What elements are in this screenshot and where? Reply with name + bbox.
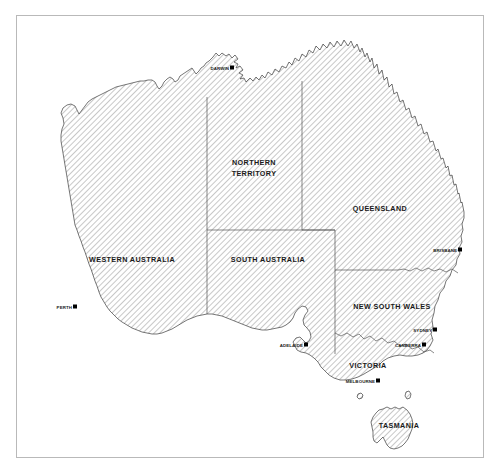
map-canvas: WESTERN AUSTRALIA NORTHERN TERRITORY QUE… <box>0 0 500 474</box>
city-label-perth: PERTH <box>57 305 72 310</box>
city-label-adelaide: ADELAIDE <box>280 343 303 348</box>
city-dot-melbourne <box>376 379 380 383</box>
city-label-sydney: SYDNEY <box>413 328 432 333</box>
city-label-brisbane: BRISBANE <box>433 248 457 253</box>
state-label-tas: TASMANIA <box>379 421 420 430</box>
state-label-nt-line2: TERRITORY <box>232 169 277 178</box>
state-label-nt: NORTHERN <box>232 158 276 167</box>
tasmania-landmass <box>357 391 413 449</box>
city-dot-perth <box>73 305 77 309</box>
city-label-darwin: DARWIN <box>210 66 229 71</box>
flinders-island <box>405 391 411 399</box>
king-island <box>357 393 363 399</box>
city-label-melbourne: MELBOURNE <box>346 379 375 384</box>
australia-map: WESTERN AUSTRALIA NORTHERN TERRITORY QUE… <box>0 0 500 474</box>
city-label-canberra: CANBERRA <box>395 343 422 348</box>
state-label-vic: VICTORIA <box>349 361 386 370</box>
state-label-qld: QUEENSLAND <box>353 204 407 213</box>
city-dot-canberra <box>422 343 426 347</box>
city-dot-brisbane <box>458 248 462 252</box>
state-label-nsw: NEW SOUTH WALES <box>353 302 430 311</box>
city-dot-adelaide <box>304 343 308 347</box>
city-dot-darwin <box>230 66 234 70</box>
city-sydney: SYDNEY <box>413 328 437 334</box>
state-label-wa: WESTERN AUSTRALIA <box>89 255 175 264</box>
city-dot-sydney <box>433 328 437 332</box>
state-label-sa: SOUTH AUSTRALIA <box>231 255 305 264</box>
city-melbourne: MELBOURNE <box>346 379 380 385</box>
city-perth: PERTH <box>57 305 77 311</box>
